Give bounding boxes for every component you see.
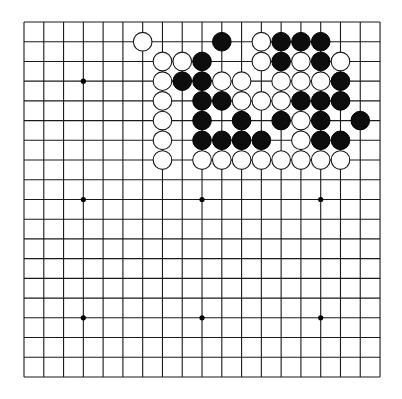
board-intersection[interactable] [95, 330, 111, 346]
board-intersection[interactable] [115, 270, 131, 286]
black-stone[interactable] [213, 92, 232, 111]
board-intersection[interactable] [352, 172, 368, 188]
board-intersection[interactable] [56, 152, 72, 168]
black-stone[interactable] [292, 92, 311, 111]
board-intersection[interactable] [95, 73, 111, 89]
board-intersection[interactable] [16, 369, 32, 385]
black-stone[interactable] [311, 52, 330, 71]
board-intersection[interactable] [115, 53, 131, 69]
black-stone[interactable] [331, 72, 350, 91]
board-intersection[interactable] [352, 93, 368, 109]
board-intersection[interactable] [56, 132, 72, 148]
black-stone[interactable] [193, 52, 212, 71]
board-intersection[interactable] [16, 270, 32, 286]
board-intersection[interactable] [75, 152, 91, 168]
board-intersection[interactable] [115, 191, 131, 207]
board-intersection[interactable] [194, 14, 210, 30]
board-intersection[interactable] [293, 330, 309, 346]
white-stone[interactable] [292, 111, 311, 130]
board-intersection[interactable] [352, 270, 368, 286]
board-intersection[interactable] [135, 211, 151, 227]
board-intersection[interactable] [174, 172, 190, 188]
board-intersection[interactable] [352, 191, 368, 207]
board-intersection[interactable] [313, 172, 329, 188]
white-stone[interactable] [252, 32, 271, 51]
board-intersection[interactable] [36, 132, 52, 148]
board-intersection[interactable] [332, 270, 348, 286]
white-stone[interactable] [252, 52, 271, 71]
board-intersection[interactable] [372, 231, 388, 247]
board-intersection[interactable] [234, 53, 250, 69]
board-intersection[interactable] [16, 231, 32, 247]
board-intersection[interactable] [214, 53, 230, 69]
white-stone[interactable] [133, 32, 152, 51]
board-intersection[interactable] [313, 191, 329, 207]
white-stone[interactable] [272, 151, 291, 170]
board-intersection[interactable] [372, 152, 388, 168]
board-intersection[interactable] [36, 290, 52, 306]
board-intersection[interactable] [372, 132, 388, 148]
board-intersection[interactable] [115, 330, 131, 346]
board-intersection[interactable] [36, 349, 52, 365]
white-stone[interactable] [153, 131, 172, 150]
board-intersection[interactable] [75, 14, 91, 30]
board-intersection[interactable] [273, 211, 289, 227]
board-intersection[interactable] [95, 191, 111, 207]
board-intersection[interactable] [36, 369, 52, 385]
white-stone[interactable] [252, 92, 271, 111]
board-intersection[interactable] [115, 211, 131, 227]
board-intersection[interactable] [214, 113, 230, 129]
board-intersection[interactable] [372, 349, 388, 365]
board-intersection[interactable] [174, 152, 190, 168]
black-stone[interactable] [331, 92, 350, 111]
board-intersection[interactable] [352, 132, 368, 148]
board-intersection[interactable] [313, 270, 329, 286]
board-intersection[interactable] [372, 270, 388, 286]
board-intersection[interactable] [75, 53, 91, 69]
board-intersection[interactable] [56, 369, 72, 385]
board-intersection[interactable] [95, 14, 111, 30]
board-intersection[interactable] [234, 14, 250, 30]
board-intersection[interactable] [95, 53, 111, 69]
board-intersection[interactable] [36, 310, 52, 326]
board-intersection[interactable] [154, 191, 170, 207]
white-stone[interactable] [331, 52, 350, 71]
board-intersection[interactable] [234, 330, 250, 346]
board-intersection[interactable] [56, 231, 72, 247]
board-intersection[interactable] [115, 172, 131, 188]
board-intersection[interactable] [174, 14, 190, 30]
board-intersection[interactable] [352, 152, 368, 168]
board-intersection[interactable] [135, 191, 151, 207]
board-intersection[interactable] [115, 93, 131, 109]
board-intersection[interactable] [36, 211, 52, 227]
board-intersection[interactable] [372, 93, 388, 109]
white-stone[interactable] [292, 151, 311, 170]
board-intersection[interactable] [36, 231, 52, 247]
white-stone[interactable] [311, 151, 330, 170]
white-stone[interactable] [153, 72, 172, 91]
board-intersection[interactable] [56, 73, 72, 89]
board-intersection[interactable] [253, 310, 269, 326]
board-intersection[interactable] [36, 191, 52, 207]
board-intersection[interactable] [253, 191, 269, 207]
black-stone[interactable] [331, 131, 350, 150]
board-intersection[interactable] [332, 172, 348, 188]
board-intersection[interactable] [214, 310, 230, 326]
board-intersection[interactable] [174, 34, 190, 50]
board-intersection[interactable] [253, 172, 269, 188]
black-stone[interactable] [252, 131, 271, 150]
board-intersection[interactable] [16, 34, 32, 50]
board-intersection[interactable] [234, 231, 250, 247]
board-intersection[interactable] [174, 191, 190, 207]
board-intersection[interactable] [16, 191, 32, 207]
board-intersection[interactable] [75, 211, 91, 227]
board-intersection[interactable] [56, 172, 72, 188]
board-intersection[interactable] [313, 330, 329, 346]
board-intersection[interactable] [135, 132, 151, 148]
board-intersection[interactable] [194, 34, 210, 50]
white-stone[interactable] [193, 151, 212, 170]
board-intersection[interactable] [293, 270, 309, 286]
white-stone[interactable] [173, 52, 192, 71]
white-stone[interactable] [153, 92, 172, 111]
board-intersection[interactable] [174, 330, 190, 346]
